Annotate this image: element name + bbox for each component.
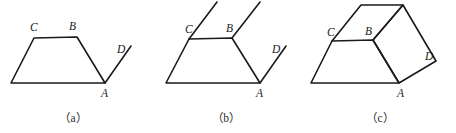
panel-b-vertex-label-B: B <box>226 22 233 34</box>
panel-b-trapezoid-outline <box>166 38 260 83</box>
geometry-figure-svg: C B D A （a） C B D A （b） C B D A <box>0 0 456 133</box>
panel-c-vertex-label-D: D <box>424 50 434 62</box>
panel-a-vertex-label-C: C <box>30 21 38 33</box>
panel-b: C B D A （b） <box>166 2 286 124</box>
panel-c-vertex-label-B: B <box>365 25 372 37</box>
panel-a-vertex-label-A: A <box>100 87 109 99</box>
panel-c-quad-right <box>373 5 436 83</box>
panel-c-caption: （c） <box>366 112 393 124</box>
panel-b-vertex-label-D: D <box>271 43 281 55</box>
panel-b-ray-from-B <box>232 2 260 38</box>
panel-c-vertex-label-A: A <box>396 87 405 99</box>
panel-a-vertex-label-D: D <box>116 43 126 55</box>
panel-b-ray-from-C <box>189 2 217 39</box>
panel-a-vertex-label-B: B <box>69 20 76 32</box>
panel-c: C B D A （c） <box>311 5 436 124</box>
panel-c-vertex-label-C: C <box>327 26 335 38</box>
panel-a: C B D A （a） <box>11 20 131 124</box>
panel-b-caption: （b） <box>212 112 240 124</box>
geometry-figure-sheet: C B D A （a） C B D A （b） C B D A <box>0 0 456 133</box>
panel-b-vertex-label-C: C <box>185 23 193 35</box>
panel-a-caption: （a） <box>59 112 86 124</box>
panel-a-trapezoid-outline <box>11 37 105 83</box>
panel-b-vertex-label-A: A <box>255 87 264 99</box>
